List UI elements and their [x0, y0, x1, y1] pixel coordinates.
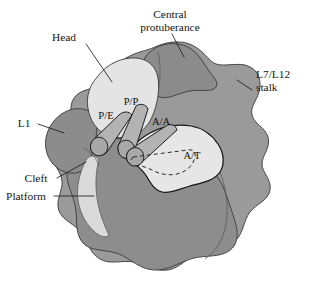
label-l1: L1: [18, 117, 31, 129]
label-a-t: A/T: [183, 150, 201, 161]
label-head: Head: [52, 31, 76, 43]
label-stalk-line1: L7/L12: [256, 68, 290, 80]
label-platform: Platform: [6, 190, 46, 202]
label-central-protuberance-line2: protuberance: [140, 21, 199, 33]
label-cleft: Cleft: [25, 172, 49, 184]
label-a-a: A/A: [152, 116, 171, 127]
label-p-e: P/E: [98, 110, 113, 121]
ribosome-diagram: Head Central protuberance L7/L12 stalk L…: [0, 0, 311, 287]
label-stalk-line2: stalk: [256, 81, 278, 93]
ribosome-figure: Head Central protuberance L7/L12 stalk L…: [0, 0, 311, 287]
p-e-trna-cap: [90, 137, 107, 156]
label-central-protuberance-line1: Central: [153, 8, 187, 20]
label-p-p: P/P: [124, 96, 139, 107]
